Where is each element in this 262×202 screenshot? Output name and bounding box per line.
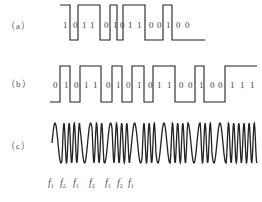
bit-label: 1	[128, 20, 133, 30]
bit-label: 1	[157, 80, 162, 90]
bit-label: 1	[250, 80, 255, 90]
bit-label: 0	[73, 20, 78, 30]
bit-label: 0	[179, 80, 184, 90]
frequency-label: f1	[105, 177, 111, 189]
bit-label: 0	[188, 80, 193, 90]
bit-label: 1	[167, 80, 172, 90]
bit-label: 0	[149, 20, 154, 30]
diagram-canvas: 10110101100100 01011010101100100111 f1f2…	[0, 0, 262, 202]
bit-label: 0	[157, 20, 162, 30]
bit-label: 1	[166, 20, 171, 30]
bit-label: 1	[230, 80, 235, 90]
bit-label: 0	[74, 80, 79, 90]
bit-label: 0	[218, 80, 223, 90]
bit-labels-a: 10110101100100	[63, 20, 190, 30]
frequency-label: f1	[48, 177, 54, 189]
bit-labels-b: 01011010101100100111	[53, 80, 255, 90]
bit-label: 0	[126, 80, 131, 90]
frequency-label: f2	[117, 177, 123, 189]
bit-label: 1	[240, 80, 245, 90]
bit-label: 1	[137, 20, 142, 30]
bit-label: 1	[64, 80, 69, 90]
waveform-b: 01011010101100100111	[50, 66, 257, 102]
bit-label: 1	[90, 20, 95, 30]
bit-label: 1	[137, 80, 142, 90]
bit-label: 0	[120, 20, 125, 30]
bit-label: 0	[106, 80, 111, 90]
bit-label: 0	[104, 20, 109, 30]
bit-label: 1	[93, 80, 98, 90]
bit-label: 0	[210, 80, 215, 90]
frequency-labels: f1f2f1f2f1f2f1	[48, 177, 134, 189]
bit-label: 0	[185, 20, 190, 30]
bit-label: 1	[113, 20, 118, 30]
bit-label: 1	[63, 20, 68, 30]
bit-label: 0	[53, 80, 58, 90]
frequency-label: f2	[60, 177, 66, 189]
frequency-label: f1	[128, 177, 134, 189]
waveform-a: 10110101100100	[60, 5, 205, 40]
bit-label: 0	[176, 20, 181, 30]
bit-label: 1	[84, 80, 89, 90]
frequency-label: f1	[73, 177, 79, 189]
frequency-label: f2	[89, 177, 95, 189]
bit-label: 1	[82, 20, 87, 30]
bit-label: 0	[148, 80, 153, 90]
bit-label: 1	[116, 80, 121, 90]
waveform-c-fsk	[52, 123, 257, 163]
bit-label: 1	[199, 80, 204, 90]
